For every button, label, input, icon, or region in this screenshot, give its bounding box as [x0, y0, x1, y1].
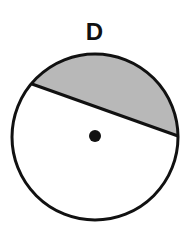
- shaded-segment: [32, 55, 178, 136]
- center-dot: [89, 130, 101, 142]
- circle-diagram: [0, 0, 189, 239]
